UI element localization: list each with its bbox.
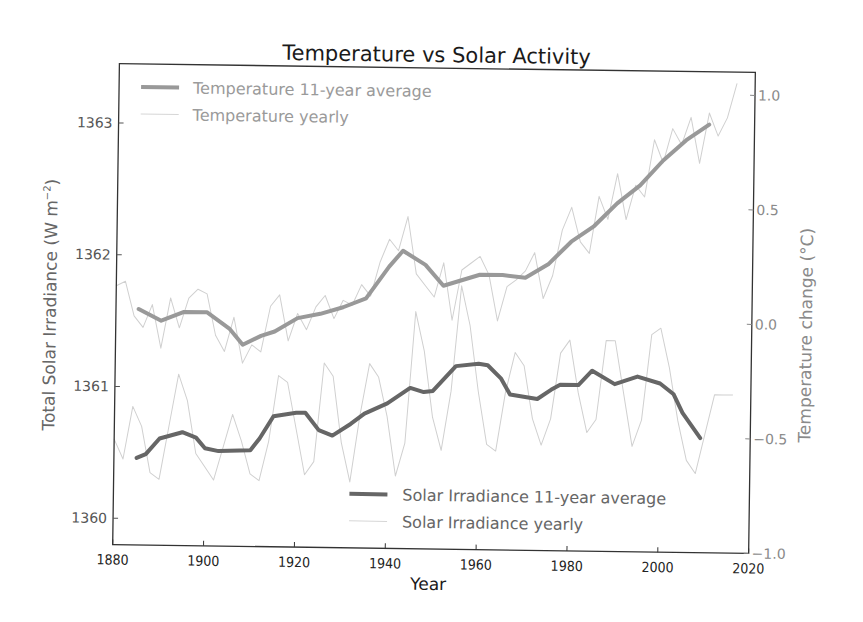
x-tick-label: 1980 — [551, 558, 583, 574]
legend-label-temperature-yearly: Temperature yearly — [192, 106, 349, 127]
chart: Temperature vs Solar Activity 1880190019… — [0, 0, 863, 622]
left-y-tick-label: 1362 — [75, 246, 111, 262]
legend-label-solar-average: Solar Irradiance 11-year average — [402, 486, 666, 509]
right-y-axis-ticks: −1.0−0.50.00.51.0 — [744, 87, 793, 562]
x-axis-ticks: 18801900192019401960198020002020 — [96, 539, 764, 576]
legend-label-solar-yearly: Solar Irradiance yearly — [402, 513, 583, 535]
legend-solar: Solar Irradiance 11-year average Solar I… — [349, 485, 666, 535]
legend-swatch-solar-average — [349, 494, 387, 495]
legend-swatch-solar-yearly — [349, 521, 387, 522]
right-y-tick-label: 0.5 — [756, 202, 778, 218]
series-temperature-11-year-average — [138, 117, 709, 352]
legend-swatch-temperature-average — [141, 87, 179, 88]
left-y-axis-label: Total Solar Irradiance (W m−2) — [38, 179, 62, 432]
left-y-tick-label: 1361 — [73, 378, 109, 394]
legend-label-temperature-average: Temperature 11-year average — [192, 79, 432, 101]
chart-title: Temperature vs Solar Activity — [281, 41, 591, 69]
x-tick-label: 1960 — [460, 556, 492, 572]
right-y-tick-label: 0.0 — [755, 316, 777, 332]
series-layer — [114, 75, 737, 487]
left-y-tick-label: 1360 — [71, 510, 107, 526]
x-axis-label: Year — [409, 574, 446, 595]
legend-swatch-temperature-yearly — [141, 114, 179, 115]
x-tick-label: 2000 — [641, 559, 673, 575]
plot-frame — [113, 64, 756, 554]
series-solar-irradiance-11-year-average — [137, 359, 702, 466]
left-y-tick-label: 1363 — [77, 114, 113, 130]
right-y-axis-label: Temperature change (°C) — [794, 228, 817, 444]
right-y-tick-label: −0.5 — [753, 431, 787, 447]
x-tick-label: 1920 — [278, 554, 310, 570]
legend-temperature: Temperature 11-year average Temperature … — [141, 78, 432, 128]
x-tick-label: 1900 — [187, 553, 219, 569]
x-tick-label: 1880 — [96, 551, 128, 567]
x-tick-label: 2020 — [732, 560, 764, 576]
x-tick-label: 1940 — [369, 555, 401, 571]
right-y-tick-label: −1.0 — [752, 545, 786, 561]
right-y-tick-label: 1.0 — [758, 87, 780, 103]
